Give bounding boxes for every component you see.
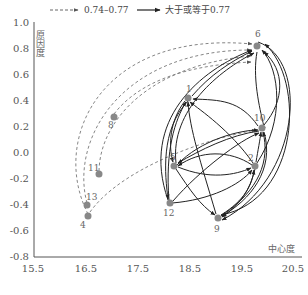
legend-solid-label: 大于或等于0.77 bbox=[165, 4, 230, 15]
x-tick: 18.5 bbox=[179, 263, 201, 274]
y-tick: 1.0 bbox=[13, 17, 29, 28]
x-tick: 17.5 bbox=[127, 263, 149, 274]
y-tick: -0.4 bbox=[10, 199, 29, 210]
x-tick: 16.5 bbox=[75, 263, 97, 274]
node-label: 12 bbox=[163, 208, 174, 218]
legend: 0.74–0.77 大于或等于0.77 bbox=[50, 4, 230, 15]
node-4 bbox=[85, 213, 92, 220]
x-tick: 20.5 bbox=[282, 263, 304, 274]
node-label: 5 bbox=[170, 152, 176, 162]
node-label: 9 bbox=[214, 224, 220, 234]
node-12 bbox=[167, 200, 174, 207]
legend-dashed-label: 0.74–0.77 bbox=[84, 5, 129, 15]
y-tick: -0.6 bbox=[10, 225, 29, 236]
node-label: 13 bbox=[86, 192, 98, 202]
y-tick: 0.8 bbox=[13, 43, 29, 54]
y-tick: -0.2 bbox=[10, 173, 29, 184]
y-tick: 0.0 bbox=[13, 147, 29, 158]
y-tick-labels: 1.0 0.8 0.6 0.4 0.2 0.0 -0.2 -0.4 -0.6 -… bbox=[10, 17, 29, 262]
node-1 bbox=[185, 95, 192, 102]
x-axis-title: 中心度 bbox=[268, 243, 295, 254]
node-label: 1 bbox=[186, 84, 192, 94]
node-label: 2 bbox=[248, 153, 254, 163]
node-9 bbox=[215, 215, 222, 222]
node-2 bbox=[252, 163, 259, 170]
solid-edges bbox=[161, 42, 290, 220]
node-6 bbox=[254, 43, 261, 50]
y-tick: 0.2 bbox=[13, 121, 29, 132]
y-axis-title: 原因度 bbox=[35, 30, 45, 58]
node-10 bbox=[259, 125, 266, 132]
node-label: 11 bbox=[88, 163, 99, 173]
node-5 bbox=[171, 163, 178, 170]
x-tick-labels: 15.5 16.5 17.5 18.5 19.5 20.5 bbox=[22, 263, 304, 274]
x-tick: 15.5 bbox=[22, 263, 44, 274]
y-tick: 0.6 bbox=[13, 69, 29, 80]
causal-diagram: 0.74–0.77 大于或等于0.77 1.0 0.8 0.6 0.4 0.2 … bbox=[0, 0, 308, 295]
node-13 bbox=[84, 202, 91, 209]
x-tick: 19.5 bbox=[231, 263, 253, 274]
node-label: 6 bbox=[255, 29, 261, 39]
y-tick: 0.4 bbox=[13, 95, 29, 106]
node-label: 8 bbox=[108, 120, 114, 130]
y-tick: -0.8 bbox=[10, 251, 29, 262]
node-label: 10 bbox=[254, 113, 266, 123]
node-label: 4 bbox=[80, 220, 86, 230]
